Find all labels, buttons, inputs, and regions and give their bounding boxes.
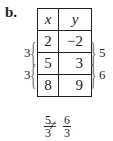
cell-x: 5 — [38, 53, 59, 75]
table-row: 8 9 — [38, 75, 92, 97]
table-header-row: x y — [38, 9, 92, 31]
part-label: b. — [5, 4, 17, 21]
cell-y: 9 — [59, 75, 92, 97]
not-equal-symbol: ≠ — [49, 118, 57, 134]
cell-x: 2 — [38, 31, 59, 53]
right-brace-icon: } — [90, 59, 96, 89]
numerator: 6 — [62, 114, 72, 126]
right-brace-label: 6 — [99, 67, 106, 83]
right-brace-label: 5 — [99, 45, 106, 61]
xy-table: x y 2 −2 5 3 8 9 — [37, 8, 92, 97]
fraction-right: 6 3 — [62, 114, 72, 139]
header-x: x — [38, 9, 59, 31]
header-y: y — [59, 9, 92, 31]
cell-y: 3 — [59, 53, 92, 75]
table-row: 5 3 — [38, 53, 92, 75]
left-brace-icon: { — [30, 59, 36, 89]
cell-x: 8 — [38, 75, 59, 97]
cell-y: −2 — [59, 31, 92, 53]
table-row: 2 −2 — [38, 31, 92, 53]
denominator: 3 — [62, 127, 72, 139]
